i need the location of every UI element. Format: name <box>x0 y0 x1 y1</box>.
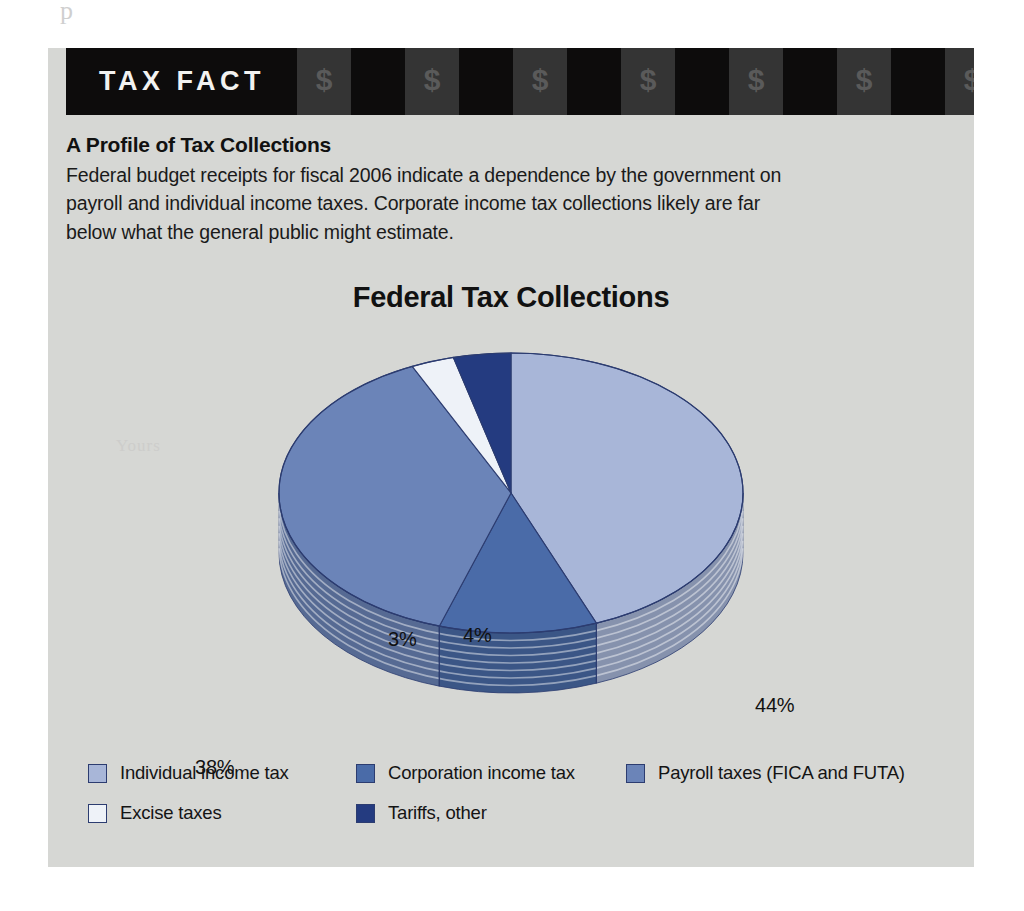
intro-body: Federal budget receipts for fiscal 2006 … <box>66 161 806 246</box>
dollar-block <box>891 48 945 115</box>
pie-chart-svg <box>48 328 974 748</box>
legend-item-payroll-taxes[interactable]: Payroll taxes (FICA and FUTA) <box>626 762 926 784</box>
banner-title: TAX FACT <box>99 66 265 97</box>
pie-chart: 3% 4% 44% 38% 11% <box>48 328 974 748</box>
dollar-pattern-strip: $ $ $ $ $ $ $ <box>297 48 974 115</box>
dollar-block: $ <box>621 48 675 115</box>
legend-swatch-icon <box>356 764 375 783</box>
legend-label: Corporation income tax <box>388 762 575 784</box>
dollar-icon: $ <box>837 63 891 97</box>
legend-row: Individual income tax Corporation income… <box>88 753 968 793</box>
intro-block: A Profile of Tax Collections Federal bud… <box>66 133 806 246</box>
dollar-block <box>459 48 513 115</box>
legend-item-corporation-income-tax[interactable]: Corporation income tax <box>356 762 626 784</box>
legend-swatch-icon <box>356 804 375 823</box>
slice-label-excise: 3% <box>388 628 417 651</box>
dollar-icon: $ <box>513 63 567 97</box>
legend-label: Tariffs, other <box>388 802 487 824</box>
intro-heading: A Profile of Tax Collections <box>66 133 806 157</box>
dollar-icon: $ <box>729 63 783 97</box>
legend-swatch-icon <box>88 764 107 783</box>
legend-label: Payroll taxes (FICA and FUTA) <box>658 762 905 784</box>
chart-title: Federal Tax Collections <box>48 281 974 314</box>
legend-swatch-icon <box>626 764 645 783</box>
dollar-block: $ <box>405 48 459 115</box>
dollar-icon: $ <box>297 63 351 97</box>
legend-item-individual-income-tax[interactable]: Individual income tax <box>88 762 356 784</box>
legend-label: Individual income tax <box>120 762 289 784</box>
slice-label-tariffs: 4% <box>463 624 492 647</box>
legend-swatch-icon <box>88 804 107 823</box>
dollar-icon: $ <box>621 63 675 97</box>
dollar-block <box>675 48 729 115</box>
legend-label: Excise taxes <box>120 802 221 824</box>
dollar-icon: $ <box>405 63 459 97</box>
tax-fact-banner: TAX FACT $ $ $ $ $ $ $ <box>66 48 974 115</box>
scan-artifact-side: Yours <box>116 436 161 456</box>
dollar-icon: $ <box>945 63 974 97</box>
dollar-block <box>351 48 405 115</box>
dollar-block <box>783 48 837 115</box>
chart-legend: Individual income tax Corporation income… <box>88 753 968 833</box>
scan-artifact-top: p <box>60 0 73 26</box>
dollar-block: $ <box>297 48 351 115</box>
dollar-block: $ <box>729 48 783 115</box>
dollar-block: $ <box>837 48 891 115</box>
legend-item-tariffs-other[interactable]: Tariffs, other <box>356 802 626 824</box>
tax-fact-card: TAX FACT $ $ $ $ $ $ $ A Profile of Tax … <box>48 48 974 867</box>
dollar-block <box>567 48 621 115</box>
legend-row: Excise taxes Tariffs, other <box>88 793 968 833</box>
legend-item-excise-taxes[interactable]: Excise taxes <box>88 802 356 824</box>
dollar-block: $ <box>513 48 567 115</box>
dollar-block: $ <box>945 48 974 115</box>
slice-label-individual: 44% <box>755 694 794 717</box>
